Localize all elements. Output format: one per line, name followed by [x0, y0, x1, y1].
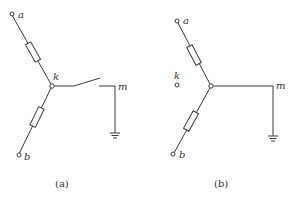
- terminal-b: [17, 153, 21, 157]
- terminal-b: [171, 152, 175, 156]
- resistor-k-b: [30, 107, 44, 128]
- label-m: m: [276, 80, 285, 91]
- label-a: a: [183, 15, 189, 26]
- caption-b: (b): [214, 178, 228, 189]
- terminal-a: [175, 19, 179, 23]
- resistor-a-center: [187, 45, 202, 66]
- terminal-k: [175, 83, 179, 87]
- circuit-diagram: a k m b (a) a k m b (b): [0, 0, 289, 205]
- caption-a: (a): [55, 178, 69, 189]
- node-center: [209, 84, 213, 88]
- label-m: m: [118, 81, 127, 92]
- resistor-a-k: [25, 42, 40, 62]
- resistor-center-b: [184, 111, 199, 131]
- label-k: k: [174, 70, 180, 81]
- label-b: b: [24, 151, 30, 162]
- ground-icon: [110, 133, 120, 138]
- node-k: [50, 84, 54, 88]
- panel-a: a k m b (a): [10, 9, 127, 189]
- panel-b: a k m b (b): [171, 15, 285, 189]
- terminal-a: [10, 12, 14, 16]
- label-k: k: [53, 71, 59, 82]
- switch-blade: [74, 78, 100, 86]
- label-b: b: [179, 149, 185, 160]
- ground-icon: [268, 136, 278, 141]
- label-a: a: [18, 9, 24, 20]
